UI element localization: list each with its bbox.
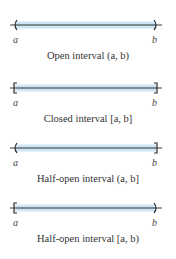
interval-caption: Closed interval [a, b]: [0, 113, 176, 124]
right-endpoint-label: b: [152, 97, 157, 108]
half-open-left-number-line: [10, 142, 162, 154]
interval-caption: Half-open interval [a, b): [0, 233, 176, 244]
open-interval-panel: a b Open interval (a, b): [0, 19, 176, 81]
half-open-right-number-line: [10, 202, 162, 214]
left-endpoint-label: a: [13, 97, 18, 108]
open-interval-number-line: [10, 19, 162, 31]
half-open-left-interval-panel: a b Half-open interval (a, b]: [0, 142, 176, 204]
right-endpoint-label: b: [152, 217, 157, 228]
interval-caption: Half-open interval (a, b]: [0, 173, 176, 184]
closed-interval-panel: a b Closed interval [a, b]: [0, 82, 176, 144]
left-endpoint-label: a: [13, 217, 18, 228]
closed-interval-number-line: [10, 82, 162, 94]
left-endpoint-label: a: [13, 157, 18, 168]
half-open-right-interval-panel: a b Half-open interval [a, b): [0, 202, 176, 259]
right-endpoint-label: b: [152, 157, 157, 168]
left-endpoint-label: a: [13, 34, 18, 45]
right-endpoint-label: b: [152, 34, 157, 45]
interval-caption: Open interval (a, b): [0, 50, 176, 61]
